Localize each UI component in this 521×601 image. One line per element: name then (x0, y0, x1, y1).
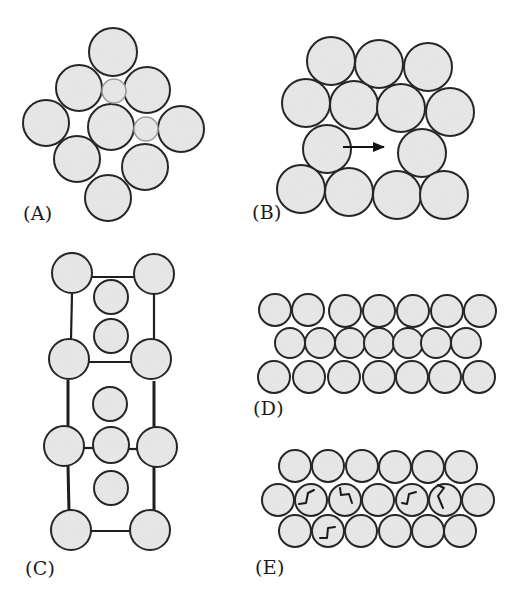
sphere-texture (405, 44, 451, 90)
sphere-texture (422, 329, 450, 357)
panel-label-e: (E) (255, 558, 285, 577)
sphere-texture (308, 38, 354, 84)
guest-sphere-texture (95, 281, 127, 313)
panel-c (44, 253, 177, 550)
framework-bond-line (68, 466, 69, 511)
guest-sphere-texture (94, 428, 128, 462)
panel-b (277, 37, 474, 219)
guest-sphere-texture (95, 472, 127, 504)
sphere-texture (304, 126, 350, 172)
sphere-texture (452, 329, 480, 357)
sphere-texture (53, 254, 91, 292)
guest-sphere-texture (94, 388, 126, 420)
panel-a (23, 28, 204, 221)
sphere-texture (278, 166, 324, 212)
sphere-texture (135, 255, 173, 293)
sphere-texture (380, 516, 410, 546)
sphere-texture (330, 296, 360, 326)
sphere-texture (313, 451, 343, 481)
sphere-texture (296, 485, 326, 515)
sphere-texture (276, 329, 304, 357)
sphere-texture (125, 68, 169, 112)
sphere-texture (364, 362, 394, 392)
panel-label-a: (A) (23, 204, 52, 223)
sphere-texture (427, 89, 473, 135)
sphere-texture (90, 29, 136, 75)
sphere-texture (123, 145, 167, 189)
sphere-texture (260, 295, 290, 325)
sphere-texture (306, 329, 334, 357)
sphere-texture (399, 130, 445, 176)
sphere-texture (363, 485, 393, 515)
sphere-texture (52, 511, 90, 549)
sphere-texture (421, 172, 467, 218)
sphere-texture (398, 296, 428, 326)
sphere-texture (280, 451, 310, 481)
sphere-texture (24, 101, 68, 145)
sphere-texture (446, 452, 476, 482)
sphere-texture (55, 137, 99, 181)
framework-bond-line (71, 294, 72, 339)
sphere-texture (364, 296, 394, 326)
sphere-texture (50, 340, 88, 378)
sphere-texture (397, 362, 427, 392)
sphere-texture (280, 516, 310, 546)
panel-label-d: (D) (253, 399, 284, 418)
sphere-texture (57, 66, 101, 110)
sphere-texture (326, 169, 372, 215)
sphere-texture (465, 296, 495, 326)
sphere-texture (432, 296, 462, 326)
interstitial-sphere-texture (135, 118, 157, 140)
sphere-texture (374, 172, 420, 218)
sphere-texture (263, 485, 293, 515)
sphere-texture (430, 485, 460, 515)
sphere-texture (365, 329, 393, 357)
sphere-texture (159, 107, 203, 151)
sphere-texture (463, 485, 493, 515)
sphere-texture (380, 452, 410, 482)
sphere-texture (86, 176, 130, 220)
sphere-texture (283, 80, 329, 126)
figure-canvas: (A) (B) (C) (D) (E) (0, 0, 521, 601)
panel-e (262, 450, 494, 547)
sphere-texture (259, 362, 289, 392)
panel-d (258, 294, 496, 393)
figure-svg (0, 0, 521, 601)
guest-sphere-texture (95, 320, 127, 352)
sphere-texture (378, 85, 424, 131)
interstitial-sphere-texture (103, 80, 125, 102)
panel-label-b: (B) (252, 203, 282, 222)
sphere-texture (293, 295, 323, 325)
sphere-texture (89, 105, 133, 149)
sphere-texture (138, 428, 176, 466)
sphere-texture (330, 485, 360, 515)
sphere-texture (336, 329, 364, 357)
sphere-texture (346, 516, 376, 546)
sphere-texture (329, 362, 359, 392)
sphere-texture (45, 427, 83, 465)
sphere-texture (131, 511, 169, 549)
sphere-texture (445, 516, 475, 546)
panel-label-c: (C) (25, 559, 55, 578)
sphere-texture (413, 516, 443, 546)
sphere-texture (294, 362, 324, 392)
sphere-texture (464, 362, 494, 392)
sphere-texture (347, 451, 377, 481)
sphere-texture (413, 452, 443, 482)
sphere-texture (394, 329, 422, 357)
sphere-texture (132, 340, 170, 378)
sphere-texture (356, 41, 402, 87)
sphere-texture (430, 362, 460, 392)
sphere-texture (397, 485, 427, 515)
sphere-texture (331, 82, 377, 128)
